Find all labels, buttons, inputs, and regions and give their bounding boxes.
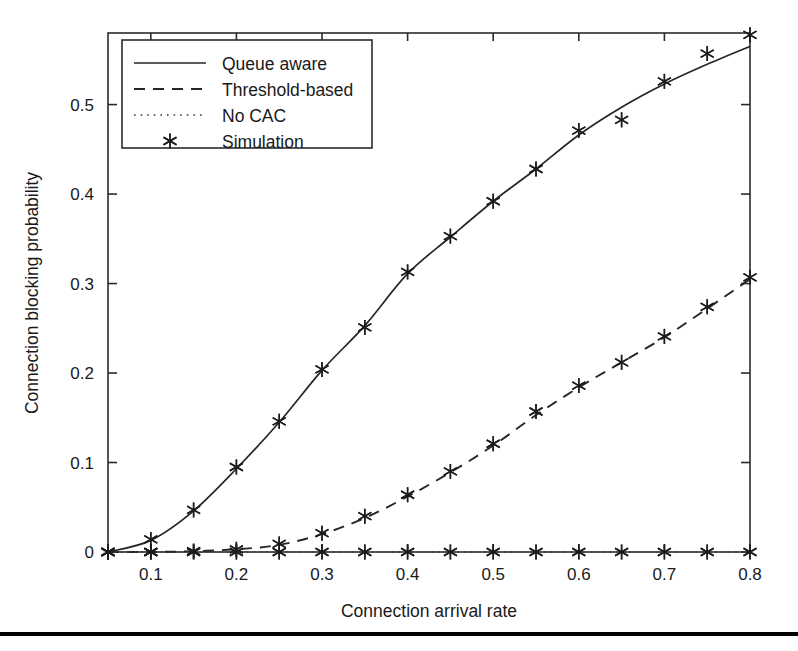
simulation-marker <box>530 162 543 177</box>
y-tick-label: 0 <box>85 543 94 562</box>
simulation-marker <box>701 46 714 61</box>
legend-label: No CAC <box>222 106 286 126</box>
x-tick-label: 0.1 <box>139 565 163 584</box>
simulation-marker <box>615 112 628 127</box>
simulation-marker <box>744 27 757 42</box>
simulation-marker <box>444 464 457 479</box>
simulation-marker <box>487 194 500 209</box>
simulation-marker <box>701 299 714 314</box>
legend-label: Simulation <box>222 132 304 152</box>
simulation-marker <box>401 264 414 279</box>
x-tick-label: 0.6 <box>567 565 591 584</box>
chart-canvas: 0.10.20.30.40.50.60.70.8 00.10.20.30.40.… <box>0 0 798 651</box>
x-tick-label: 0.8 <box>738 565 762 584</box>
y-axis-tick-labels: 00.10.20.30.40.5 <box>70 96 94 562</box>
simulation-marker <box>615 355 628 370</box>
x-tick-label: 0.3 <box>310 565 334 584</box>
x-axis-label: Connection arrival rate <box>341 601 517 621</box>
x-tick-label: 0.5 <box>481 565 505 584</box>
y-tick-label: 0.3 <box>70 275 94 294</box>
x-tick-label: 0.4 <box>396 565 420 584</box>
x-tick-label: 0.2 <box>225 565 249 584</box>
y-axis-label: Connection blocking probability <box>22 172 42 414</box>
x-axis-tick-labels: 0.10.20.30.40.50.60.70.8 <box>139 565 762 584</box>
simulation-marker <box>316 526 329 541</box>
simulation-marker <box>230 459 243 474</box>
figure-container: 0.10.20.30.40.50.60.70.8 00.10.20.30.40.… <box>0 0 798 651</box>
simulation-marker <box>358 320 371 335</box>
footer-rule <box>0 632 798 636</box>
y-tick-label: 0.2 <box>70 364 94 383</box>
legend-label: Threshold-based <box>222 80 353 100</box>
y-tick-label: 0.5 <box>70 96 94 115</box>
x-tick-label: 0.7 <box>653 565 677 584</box>
simulation-marker <box>530 404 543 419</box>
simulation-marker <box>572 123 585 138</box>
chart-legend: Queue awareThreshold-basedNo CACSimulati… <box>122 40 372 152</box>
y-tick-label: 0.1 <box>70 454 94 473</box>
curve-threshold-based <box>108 279 750 552</box>
simulation-marker <box>658 329 671 344</box>
legend-label: Queue aware <box>222 54 327 74</box>
y-tick-label: 0.4 <box>70 185 94 204</box>
